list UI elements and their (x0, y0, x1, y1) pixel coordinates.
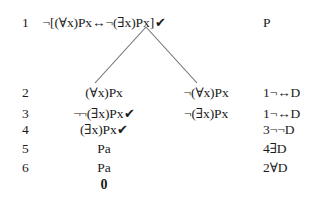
branch-line-right (146, 27, 197, 83)
formula-right: ¬(∀x)Px (150, 84, 262, 101)
justification: 3¬¬D (263, 121, 321, 138)
justification: P (263, 14, 321, 31)
checkmark-icon: ✔ (117, 123, 128, 137)
tree-row: 2(∀x)Px¬(∀x)Px1¬↔D (0, 84, 321, 101)
justification: 1¬↔D (263, 84, 321, 101)
justification: 1¬↔D (263, 105, 321, 122)
formula-text: Pa (97, 160, 110, 175)
tree-row: 1¬[(∀x)Px↔¬(∃x)Px]✔P (0, 14, 321, 31)
formula-text: ¬¬(∃x)Px (73, 106, 123, 121)
justification: 4∃D (263, 140, 321, 157)
formula-text: ¬(∀x)Px (183, 85, 228, 100)
formula-text: ¬(∃x)Px (184, 106, 228, 121)
double-negation: ¬¬ (73, 106, 86, 121)
justification: 2∀D (263, 159, 321, 176)
formula-text: Pa (97, 141, 110, 156)
formula-left: Pa (24, 140, 184, 157)
formula-left: (∃x)Px✔ (24, 121, 184, 139)
formula-left: Pa (24, 159, 184, 176)
tree-row: 3¬¬(∃x)Px✔¬(∃x)Px1¬↔D (0, 105, 321, 122)
formula-right: ¬(∃x)Px (150, 105, 262, 122)
checkmark-icon: ✔ (154, 16, 165, 30)
formula-left: ¬[(∀x)Px↔¬(∃x)Px]✔ (24, 14, 184, 32)
checkmark-icon: ✔ (123, 107, 134, 121)
closed-branch-marker: 0 (24, 176, 184, 193)
formula-text: (∃x)Px (80, 122, 117, 137)
tree-row: 5Pa4∃D (0, 140, 321, 157)
formula-text: (∀x)Px (85, 85, 123, 100)
tree-row: 6Pa2∀D (0, 159, 321, 176)
branch-line-left (95, 27, 146, 83)
tree-row: 4(∃x)Px✔3¬¬D (0, 121, 321, 138)
formula-text: ¬[(∀x)Px↔¬(∃x)Px] (43, 15, 155, 30)
